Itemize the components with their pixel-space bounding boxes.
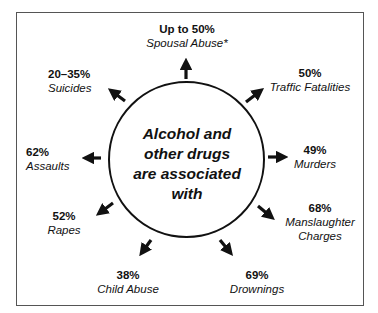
center-line: with xyxy=(112,184,262,204)
item-category: Charges xyxy=(280,229,360,243)
item-category: Traffic Fatalities xyxy=(265,80,355,94)
item-percent: 52% xyxy=(44,209,84,223)
item-suicides: 20–35% Suicides xyxy=(48,67,104,95)
item-category: Manslaughter xyxy=(280,215,360,229)
item-category: Murders xyxy=(290,157,340,171)
center-line: are associated xyxy=(112,164,262,184)
item-category: Suicides xyxy=(48,81,104,95)
item-rapes: 52% Rapes xyxy=(44,209,84,237)
arrow-down-left-icon xyxy=(143,240,151,251)
arrow-down-right-icon xyxy=(258,206,270,216)
item-category: Spousal Abuse* xyxy=(142,36,232,50)
arrow-down-left-icon xyxy=(101,203,113,212)
item-drownings: 69% Drownings xyxy=(222,268,292,296)
item-percent: 50% xyxy=(265,66,355,80)
item-category: Drownings xyxy=(222,282,292,296)
item-murders: 49% Murders xyxy=(290,143,340,171)
center-line: other drugs xyxy=(112,144,262,164)
item-percent: Up to 50% xyxy=(142,22,232,36)
arrow-up-right-icon xyxy=(246,92,259,102)
item-percent: 68% xyxy=(280,201,360,215)
center-line: Alcohol and xyxy=(112,124,262,144)
item-child-abuse: 38% Child Abuse xyxy=(92,268,164,296)
item-category: Assaults xyxy=(26,159,76,173)
item-percent: 69% xyxy=(222,268,292,282)
item-category: Rapes xyxy=(44,223,84,237)
center-text: Alcohol and other drugs are associated w… xyxy=(112,124,262,204)
item-assaults: 62% Assaults xyxy=(26,145,76,173)
item-percent: 38% xyxy=(92,268,164,282)
item-percent: 20–35% xyxy=(48,67,104,81)
item-percent: 62% xyxy=(26,145,76,159)
item-traffic-fatalities: 50% Traffic Fatalities xyxy=(265,66,355,94)
item-manslaughter-charges: 68% Manslaughter Charges xyxy=(280,201,360,243)
arrow-up-left-icon xyxy=(113,92,125,101)
arrow-down-right-icon xyxy=(220,240,229,251)
item-category: Child Abuse xyxy=(92,282,164,296)
item-percent: 49% xyxy=(290,143,340,157)
item-spousal-abuse: Up to 50% Spousal Abuse* xyxy=(142,22,232,50)
